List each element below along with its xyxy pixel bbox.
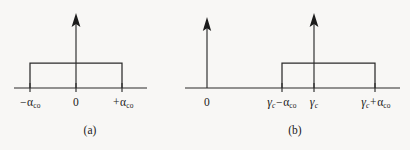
- panel-a-label-minus-alpha-co: −αco: [19, 97, 40, 109]
- panel-b-rectangle: [282, 63, 375, 88]
- panel-a: −αco 0 +αco (a): [0, 0, 180, 150]
- panel-b-label-gamma-c: γc: [310, 96, 318, 109]
- panel-a-caption: (a): [0, 124, 180, 136]
- panel-a-label-plus-alpha-co: +αco: [112, 97, 133, 109]
- panel-b-label-gamma-c-plus-alpha-co: γc+αco: [361, 96, 390, 109]
- panel-b-caption: (b): [180, 124, 410, 136]
- panel-b-label-zero: 0: [204, 97, 210, 109]
- panel-a-label-zero: 0: [73, 97, 79, 109]
- panel-b: 0 γc−αco γc γc+αco (b): [180, 0, 410, 150]
- figure-root: −αco 0 +αco (a) 0 γc−αco: [0, 0, 410, 150]
- panel-b-label-gamma-c-minus-alpha-co: γc−αco: [267, 96, 296, 109]
